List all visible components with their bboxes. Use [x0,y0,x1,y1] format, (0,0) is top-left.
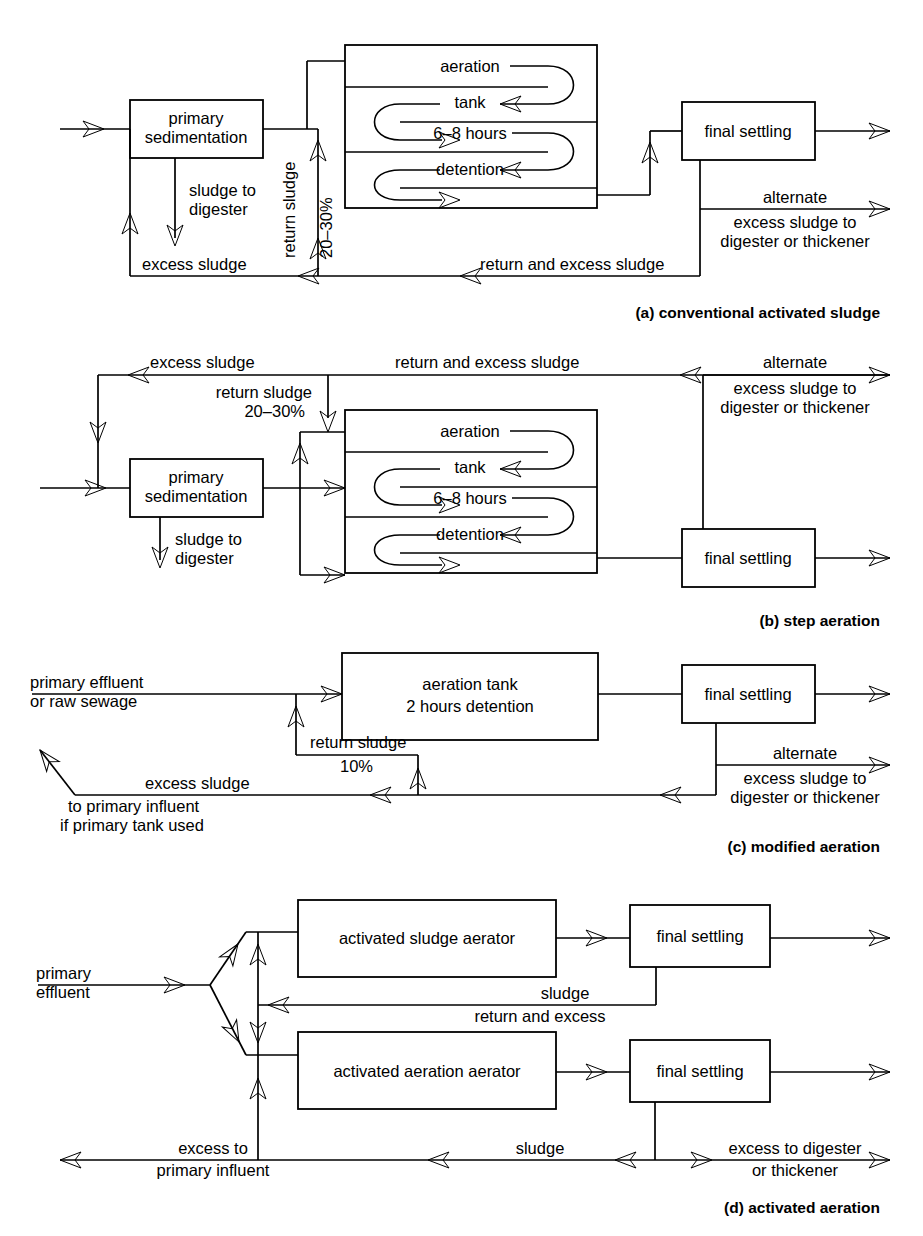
box-primary-sedimentation-b-line1: primary [168,468,224,486]
label-return-sludge-b: return sludge [216,383,312,401]
label-return-pct-c: 10% [340,757,373,775]
label-aeration-b: aeration [440,422,500,440]
panel-a: primary sedimentation sludge to digester… [60,45,890,321]
panel-d: primary effluent activated sludge aerato… [36,900,890,1216]
panel-b: excess sludge return and excess sludge p… [40,353,890,629]
label-sludge-d-top: sludge [541,984,590,1002]
label-primary-effluent-d-2: effluent [36,983,90,1001]
label-return-sludge-c: return sludge [310,733,406,751]
label-primary-effluent-d-1: primary [36,964,92,982]
caption-panel-b: (b) step aeration [759,612,880,629]
label-aeration-tank-c-1: aeration tank [422,675,518,693]
label-alternate-a: alternate [763,188,827,206]
label-excess-sludge-c: excess sludge [145,774,250,792]
label-sludge-to-digester-a-2: digester [189,200,248,218]
label-final-settling-c: final settling [704,685,791,703]
label-tank-b: tank [454,458,486,476]
label-aeration-tank-c-2: 2 hours detention [406,697,534,715]
label-tank-a: tank [454,93,486,111]
box-primary-sedimentation-a-line1: primary [168,109,224,127]
label-excess-to-d-1: excess to [178,1139,248,1157]
label-return-and-excess-b: return and excess sludge [395,353,579,371]
label-alt2-b: excess sludge to [734,379,857,397]
label-excess-c-2: to primary influent [68,797,200,815]
label-sludge-d-bottom: sludge [516,1139,565,1157]
label-excess-digester-d-2: or thickener [752,1161,839,1179]
label-excess-sludge-a: excess sludge [142,255,247,273]
box-primary-sedimentation-b-line2: sedimentation [145,487,248,505]
caption-panel-d: (d) activated aeration [724,1199,880,1216]
label-return-and-excess-d: return and excess [474,1007,605,1025]
label-return-and-excess-sludge-a: return and excess sludge [480,255,664,273]
label-final-settling-a: final settling [704,122,791,140]
figure-canvas: primary sedimentation sludge to digester… [0,0,923,1236]
label-activated-sludge-aerator: activated sludge aerator [339,929,516,947]
label-hours-a: 6–8 hours [433,124,506,142]
label-alt3-a: digester or thickener [720,232,870,250]
label-return-pct-a: 20–30% [317,197,335,258]
label-primary-effluent-c-1: primary effluent [30,673,144,691]
label-excess-sludge-b: excess sludge [150,353,255,371]
label-aeration-a: aeration [440,57,500,75]
label-alt3-b: digester or thickener [720,398,870,416]
panel-c: primary effluent or raw sewage aeration … [30,653,890,855]
label-detention-b: detention [436,525,504,543]
caption-panel-a: (a) conventional activated sludge [635,304,880,321]
label-alt2-c: excess sludge to [744,769,867,787]
label-detention-a: detention [436,160,504,178]
label-sludge-to-digester-a-1: sludge to [189,181,256,199]
label-excess-c-3: if primary tank used [60,816,204,834]
label-final-settling-d-top: final settling [656,927,743,945]
box-primary-sedimentation-a-line2: sedimentation [145,128,248,146]
label-final-settling-d-bottom: final settling [656,1062,743,1080]
label-return-pct-b: 20–30% [244,402,305,420]
label-primary-effluent-c-2: or raw sewage [30,692,137,710]
caption-panel-c: (c) modified aeration [728,838,880,855]
label-return-sludge-a: return sludge [280,162,298,258]
label-activated-aeration-aerator: activated aeration aerator [333,1062,521,1080]
label-hours-b: 6–8 hours [433,489,506,507]
label-alt3-c: digester or thickener [730,788,880,806]
label-alt2-a: excess sludge to [734,213,857,231]
label-alternate-c: alternate [773,744,837,762]
label-alternate-b: alternate [763,353,827,371]
label-excess-digester-d-1: excess to digester [729,1139,862,1157]
label-sludge-to-digester-b-2: digester [175,549,234,567]
label-sludge-to-digester-b-1: sludge to [175,530,242,548]
flow-diagram-svg: primary sedimentation sludge to digester… [0,0,923,1236]
label-final-settling-b: final settling [704,549,791,567]
label-excess-to-d-2: primary influent [157,1161,270,1179]
